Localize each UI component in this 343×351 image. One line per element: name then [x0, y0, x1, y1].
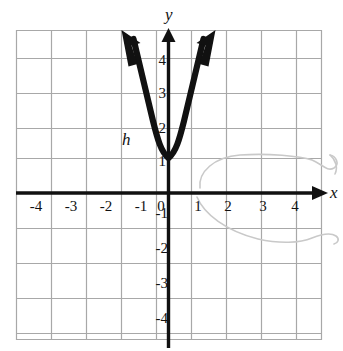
x-tick--1: -1 — [135, 199, 148, 214]
pencil-scribble-artifact — [197, 154, 338, 244]
curve-label-h: h — [122, 131, 131, 148]
x-tick-4: 4 — [291, 199, 299, 214]
y-tick--1: -1 — [156, 206, 169, 221]
y-tick-4: 4 — [159, 53, 167, 68]
x-tick-2: 2 — [224, 199, 232, 214]
graph-figure: y x h -4 -3 -2 -1 0 1 2 3 4 1 2 3 4 -1 -… — [0, 0, 343, 351]
coordinate-plane-svg — [0, 0, 343, 351]
x-tick-1: 1 — [194, 199, 202, 214]
x-axis-label: x — [330, 184, 338, 201]
y-axis-label: y — [165, 6, 173, 23]
x-tick--3: -3 — [65, 199, 78, 214]
y-tick-2: 2 — [159, 121, 167, 136]
y-tick-3: 3 — [159, 86, 167, 101]
y-tick--4: -4 — [156, 311, 169, 326]
x-axis — [16, 186, 328, 200]
y-axis — [162, 28, 176, 348]
y-tick-1: 1 — [159, 154, 167, 169]
x-tick-3: 3 — [259, 199, 267, 214]
y-tick--3: -3 — [156, 276, 169, 291]
x-tick--2: -2 — [100, 199, 113, 214]
y-tick--2: -2 — [156, 241, 169, 256]
x-tick--4: -4 — [30, 199, 43, 214]
